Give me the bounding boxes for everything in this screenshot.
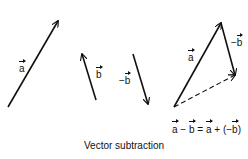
vector-a-symbol: a [188,53,194,63]
eq-vector-b-rhs: b [232,124,238,135]
eq-minus: − [178,124,189,135]
vector-a-arrow [8,21,58,107]
subtraction-equation: a − b = a + (−b) [172,124,241,135]
diagram-caption: Vector subtraction [0,140,248,151]
label-vector-neg-b: −b [119,76,130,86]
vector-b-symbol: b [125,76,131,86]
vector-neg-b-arrow [133,54,148,104]
eq-close-paren: ) [238,124,241,135]
vector-b-symbol: b [237,38,243,48]
label-triangle-vector-a: a [188,53,194,63]
vector-a-symbol: a [19,64,25,74]
eq-vector-a: a [172,124,178,135]
eq-plus-open: + (− [212,124,233,135]
label-vector-b: b [96,70,102,80]
vector-b-symbol: b [96,70,102,80]
eq-vector-a-rhs: a [206,124,212,135]
label-vector-a: a [19,64,25,74]
triangle-vector-neg-b-arrow [221,23,235,75]
eq-equals: = [195,124,206,135]
label-triangle-vector-neg-b: −b [231,38,242,48]
eq-vector-b: b [189,124,195,135]
vector-b-arrow [82,54,96,100]
